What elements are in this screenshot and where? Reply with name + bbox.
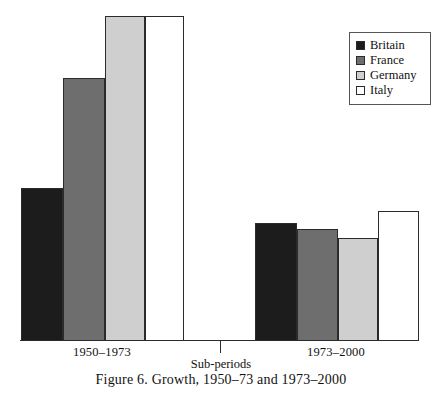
legend-swatch-germany-icon: [356, 71, 365, 80]
legend-label-italy: Italy: [370, 84, 393, 97]
bar-britain-1950-1973: [21, 188, 63, 341]
legend-item-germany: Germany: [356, 68, 424, 83]
figure-container: Britain France Germany Italy 1950–1973 1…: [0, 0, 442, 394]
bar-britain-1973-2000: [255, 223, 297, 341]
legend-label-germany: Germany: [370, 69, 417, 82]
legend-item-britain: Britain: [356, 38, 424, 53]
bar-italy-1950-1973: [145, 16, 184, 341]
legend-swatch-italy-icon: [356, 86, 365, 95]
figure-caption: Figure 6. Growth, 1950–73 and 1973–2000: [0, 372, 442, 388]
legend-label-france: France: [370, 54, 404, 67]
legend: Britain France Germany Italy: [349, 32, 431, 105]
x-tick-label-1950-1973: 1950–1973: [42, 345, 162, 360]
legend-label-britain: Britain: [370, 39, 405, 52]
bar-germany-1973-2000: [338, 238, 378, 341]
bar-germany-1950-1973: [105, 16, 145, 341]
bar-france-1950-1973: [63, 78, 105, 341]
x-axis-tick-center: [220, 341, 221, 353]
bar-france-1973-2000: [297, 229, 338, 341]
bar-italy-1973-2000: [378, 211, 419, 341]
x-axis-title: Sub-periods: [161, 357, 281, 372]
plot-area: Britain France Germany Italy: [0, 0, 442, 345]
legend-swatch-france-icon: [356, 56, 365, 65]
legend-item-italy: Italy: [356, 83, 424, 98]
legend-swatch-britain-icon: [356, 41, 365, 50]
x-tick-label-1973-2000: 1973–2000: [276, 345, 396, 360]
legend-item-france: France: [356, 53, 424, 68]
